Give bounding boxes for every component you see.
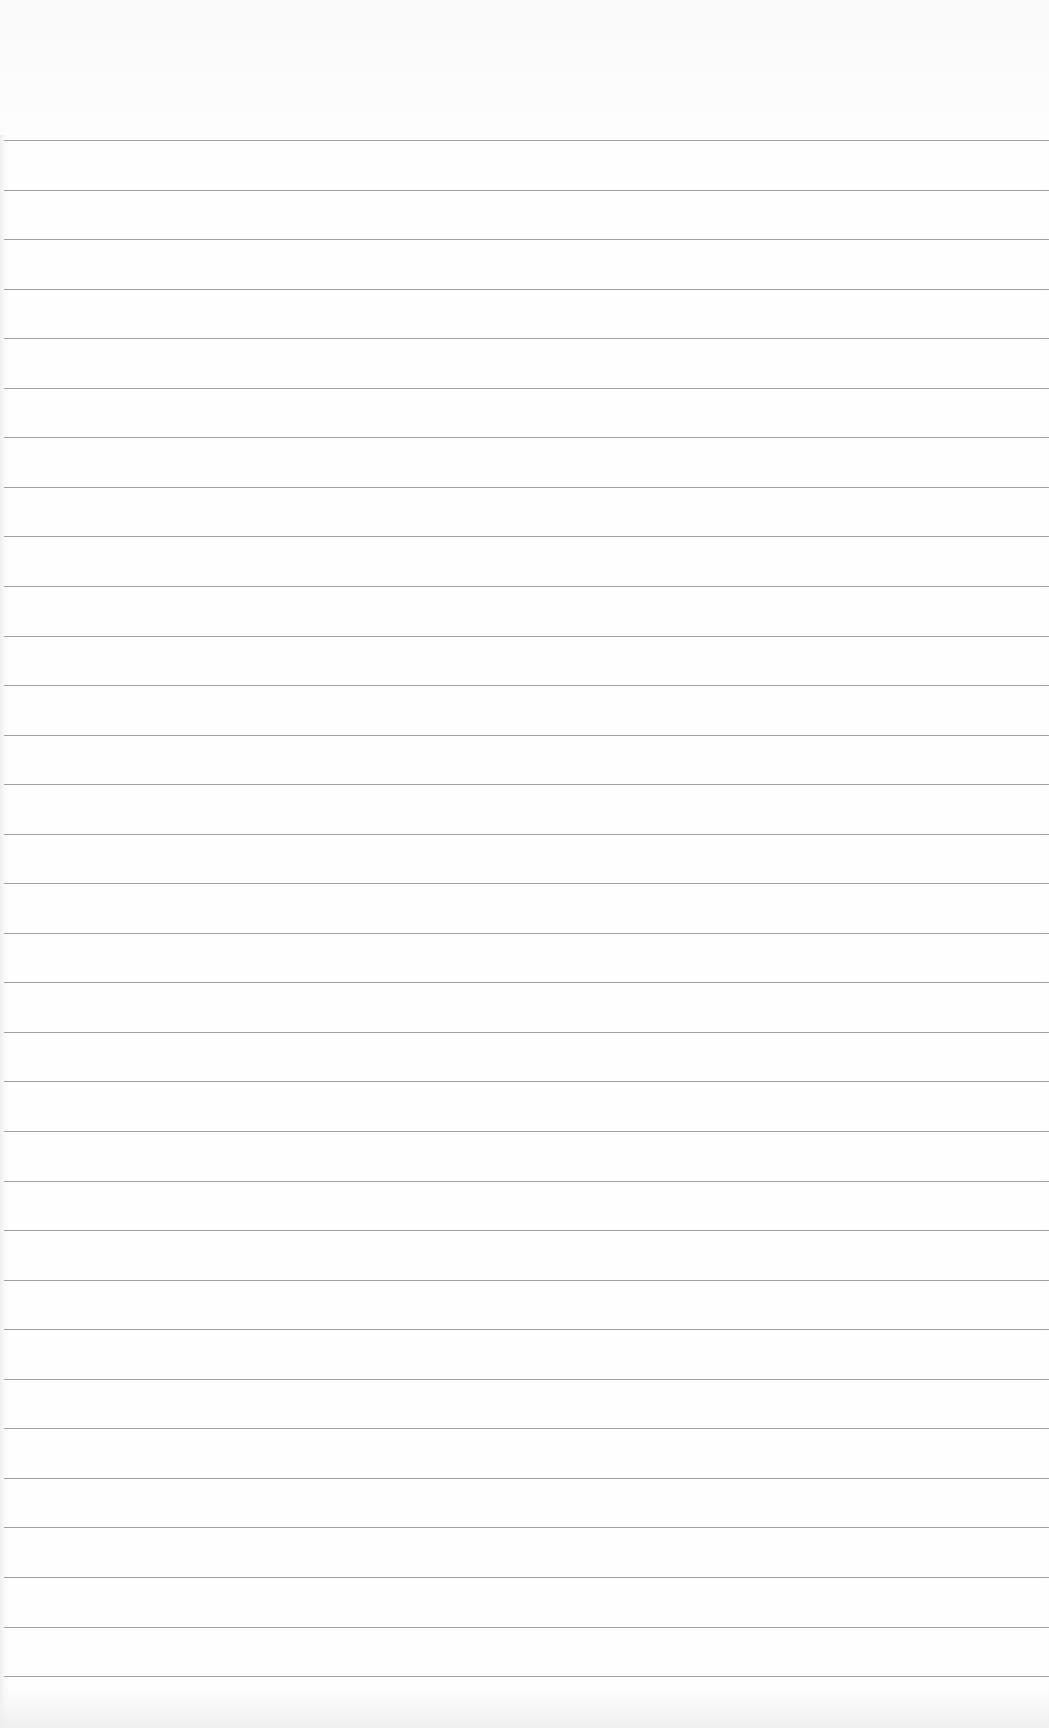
ruled-line: [4, 784, 1049, 785]
ruled-line: [4, 239, 1049, 240]
ruled-line: [4, 1181, 1049, 1182]
ruled-line: [4, 933, 1049, 934]
ruled-line: [4, 982, 1049, 983]
ruled-line: [4, 140, 1049, 141]
ruled-line: [4, 487, 1049, 488]
ruled-line: [4, 735, 1049, 736]
ruled-line: [4, 586, 1049, 587]
ruled-line: [4, 437, 1049, 438]
ruled-line: [4, 1627, 1049, 1628]
ruled-line: [4, 1577, 1049, 1578]
ruled-line: [4, 1230, 1049, 1231]
ruled-line: [4, 1329, 1049, 1330]
ruled-lines: [0, 0, 1049, 1728]
ruled-line: [4, 1379, 1049, 1380]
lined-paper-sheet: [0, 0, 1049, 1728]
ruled-line: [4, 1280, 1049, 1281]
ruled-line: [4, 338, 1049, 339]
ruled-line: [4, 636, 1049, 637]
ruled-line: [4, 883, 1049, 884]
ruled-line: [4, 536, 1049, 537]
ruled-line: [4, 685, 1049, 686]
ruled-line: [4, 388, 1049, 389]
ruled-line: [4, 1032, 1049, 1033]
ruled-line: [4, 1527, 1049, 1528]
ruled-line: [4, 289, 1049, 290]
ruled-line: [4, 1478, 1049, 1479]
ruled-line: [4, 1676, 1049, 1677]
bottom-edge-shadow: [0, 1688, 1049, 1728]
ruled-line: [4, 1131, 1049, 1132]
ruled-line: [4, 834, 1049, 835]
ruled-line: [4, 1428, 1049, 1429]
ruled-line: [4, 1081, 1049, 1082]
ruled-line: [4, 190, 1049, 191]
